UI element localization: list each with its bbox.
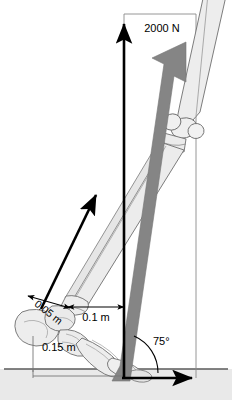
angle-label: 75°: [153, 335, 170, 347]
dim-ground-label: 0.15 m: [42, 341, 76, 353]
biomechanics-diagram: 0.1 m 0.05 m 0.15 m 75° 2000 N: [0, 0, 232, 400]
angle-marker-group: 75°: [134, 335, 170, 373]
dim-horizontal-label: 0.1 m: [82, 311, 110, 323]
force-magnitude-label: 2000 N: [144, 22, 180, 34]
figure-canvas: 0.1 m 0.05 m 0.15 m 75° 2000 N: [0, 0, 232, 400]
